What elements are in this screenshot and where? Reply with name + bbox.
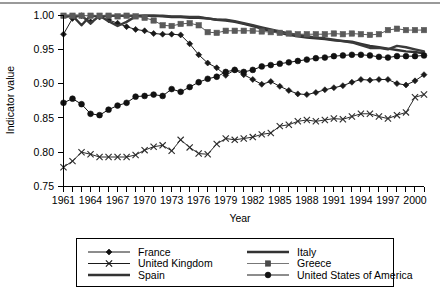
data-point-diamond (358, 76, 364, 82)
x-tick-label: 1970 (133, 194, 157, 206)
data-point-diamond (160, 31, 166, 37)
data-point-cross (394, 112, 400, 118)
data-point-circle (214, 74, 220, 80)
data-point-square (331, 31, 336, 36)
data-point-circle (187, 84, 193, 90)
data-point-square (340, 32, 345, 37)
data-point-circle (367, 53, 373, 59)
data-point-square (97, 13, 102, 18)
legend-label: France (138, 246, 171, 258)
data-point-cross (169, 148, 175, 154)
data-point-diamond (385, 76, 391, 82)
data-point-square (169, 23, 174, 28)
x-tick-label: 1964 (79, 194, 103, 206)
data-point-circle (97, 112, 103, 118)
data-point-square (241, 28, 246, 33)
data-point-circle (88, 111, 94, 117)
data-point-circle (205, 76, 211, 82)
data-point-square (403, 27, 408, 32)
data-point-square (70, 13, 75, 18)
data-point-square (394, 26, 399, 31)
data-point-circle (295, 58, 301, 64)
legend-marker-circle (265, 272, 271, 278)
data-point-circle (241, 69, 247, 75)
x-axis: 1961196419671970197319761979198219851988… (52, 187, 427, 225)
data-point-diamond (133, 26, 139, 32)
plot-area (60, 13, 427, 171)
data-point-square (367, 32, 372, 37)
data-point-circle (223, 69, 229, 75)
data-point-circle (277, 61, 283, 67)
x-tick-label: 1997 (376, 194, 400, 206)
data-point-cross (412, 94, 418, 100)
legend-label: Italy (297, 246, 317, 258)
data-point-circle (394, 53, 400, 59)
data-point-circle (232, 67, 238, 73)
data-point-square (250, 28, 255, 33)
y-tick-label: 0.80 (34, 146, 55, 158)
data-point-circle (286, 59, 292, 65)
data-point-square (124, 13, 129, 18)
data-point-circle (250, 67, 256, 73)
data-point-diamond (421, 72, 427, 78)
x-tick-label: 1976 (187, 194, 211, 206)
data-point-square (142, 15, 147, 20)
data-point-square (133, 14, 138, 19)
x-tick-label: 2000 (403, 194, 427, 206)
data-point-circle (160, 93, 166, 99)
data-point-circle (151, 92, 157, 98)
data-point-cross (214, 141, 220, 147)
data-point-diamond (394, 81, 400, 87)
data-point-circle (115, 103, 121, 109)
data-point-circle (106, 107, 112, 113)
data-point-square (196, 23, 201, 28)
data-point-circle (421, 53, 427, 59)
data-point-square (322, 32, 327, 37)
data-point-circle (313, 55, 319, 61)
data-point-diamond (151, 31, 157, 37)
legend-marker-square (265, 261, 270, 266)
data-point-square (421, 27, 426, 32)
data-point-square (385, 27, 390, 32)
data-point-square (358, 32, 363, 37)
y-axis-title: Indicator value (4, 66, 16, 134)
data-point-diamond (142, 28, 148, 34)
data-point-circle (178, 89, 184, 95)
data-point-circle (142, 93, 148, 99)
y-axis-ticks: 0.750.800.850.900.951.00 (34, 9, 64, 193)
y-tick-label: 0.85 (34, 112, 55, 124)
data-point-diamond (304, 92, 310, 98)
data-point-cross (349, 113, 355, 119)
data-point-diamond (169, 31, 175, 37)
data-point-cross (178, 137, 184, 143)
data-point-cross (187, 144, 193, 150)
data-point-square (304, 32, 309, 37)
data-point-circle (340, 53, 346, 59)
x-axis-ticks: 1961196419671970197319761979198219851988… (52, 187, 427, 207)
data-point-diamond (349, 79, 355, 85)
data-point-diamond (286, 87, 292, 93)
data-point-square (223, 28, 228, 33)
data-point-diamond (313, 90, 319, 96)
x-tick-label: 1991 (322, 194, 346, 206)
legend-label: United States of America (297, 269, 413, 281)
data-point-circle (403, 53, 409, 59)
x-axis-title: Year (229, 212, 251, 224)
data-point-square (268, 29, 273, 34)
data-point-square (286, 31, 291, 36)
x-tick-label: 1985 (268, 194, 292, 206)
data-point-diamond (259, 81, 265, 87)
data-point-square (115, 14, 120, 19)
data-point-square (376, 32, 381, 37)
y-tick-label: 0.90 (34, 77, 55, 89)
x-tick-label: 1961 (52, 194, 76, 206)
data-point-square (88, 13, 93, 18)
data-point-diamond (412, 78, 418, 84)
data-point-circle (412, 53, 418, 59)
data-point-square (187, 21, 192, 26)
x-tick-label: 1979 (214, 194, 238, 206)
data-point-square (277, 30, 282, 35)
data-point-circle (124, 100, 130, 106)
data-point-diamond (340, 83, 346, 89)
data-point-square (205, 29, 210, 34)
